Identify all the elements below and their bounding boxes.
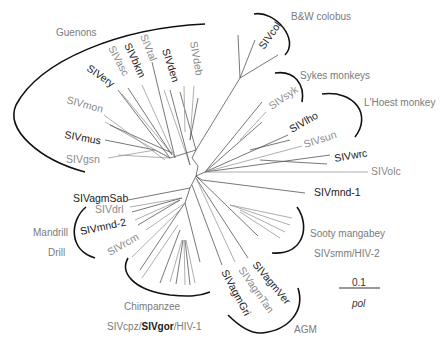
phylogenetic-tree: SIVgsn SIVmus SIVmon SIVery SIVasc SIVbk…	[0, 0, 443, 347]
left-branches	[128, 188, 200, 285]
label-SIVwrc: SIVwrc	[333, 146, 368, 164]
chimp-arc	[126, 258, 210, 296]
label-SIVlho: SIVlho	[287, 109, 320, 135]
label-SIVery: SIVery	[85, 62, 118, 90]
group-label-guenons: Guenons	[56, 27, 97, 38]
group-label-bw-colobus: B&W colobus	[291, 11, 351, 22]
group-label-chimp: Chimpanzee	[124, 301, 181, 312]
group-label-sooty-sub: SIVsmm/HIV-2	[314, 248, 380, 259]
gene-label: pol	[351, 298, 366, 309]
group-label-sykes: Sykes monkeys	[300, 70, 370, 81]
sooty-arc	[272, 207, 304, 253]
label-SIVsun: SIVsun	[302, 128, 338, 150]
label-SIVcol: SIVcol	[256, 19, 283, 51]
right-branches	[202, 102, 368, 193]
label-SIVden: SIVden	[160, 47, 182, 84]
tree-backbone	[180, 150, 205, 210]
label-SIVmnd-2: SIVmnd-2	[79, 215, 127, 236]
scale-bar-value: 0.1	[352, 277, 366, 288]
label-SIVmus: SIVmus	[64, 128, 102, 146]
group-arcs	[14, 14, 362, 333]
label-SIVdrl: SIVdrl	[95, 203, 124, 215]
label-SIVsyk: SIVsyk	[266, 83, 300, 112]
label-SIVmon: SIVmon	[65, 93, 104, 114]
label-SIVgsn: SIVgsn	[66, 153, 100, 165]
label-SIVolc: SIVolc	[371, 165, 401, 177]
group-label-agm: AGM	[294, 324, 317, 335]
group-label-chimp-sub: SIVcpz/SIVgor/HIV-1	[107, 321, 202, 332]
group-label-sooty: Sooty mangabey	[310, 228, 385, 239]
group-label-mandrill: Mandrill	[33, 227, 68, 238]
scale-bar: 0.1 pol	[339, 277, 380, 309]
group-label-drill: Drill	[48, 247, 65, 258]
label-SIVmnd-1: SIVmnd-1	[314, 186, 361, 198]
group-label-lhoest: L'Hoest monkey	[364, 97, 435, 108]
label-SIVdeb: SIVdeb	[188, 40, 206, 76]
